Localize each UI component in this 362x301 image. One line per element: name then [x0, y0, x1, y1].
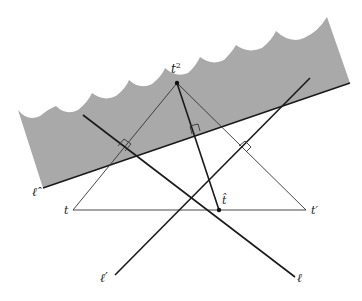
diagram-canvas: t2 t t′ t̂ ℓ̂ ℓ ℓ′: [0, 0, 362, 301]
label-t-hat: t̂: [222, 193, 227, 207]
label-ell-hat: ℓ̂: [32, 185, 42, 199]
line-ell: [83, 115, 295, 277]
label-t: t: [64, 204, 69, 217]
point-t-squared: [175, 81, 179, 85]
label-ell: ℓ: [297, 271, 302, 285]
label-t-squared: t2: [171, 61, 181, 76]
label-ell-prime: ℓ′: [100, 271, 108, 285]
label-t-prime: t′: [311, 204, 318, 217]
point-t-hat: [217, 208, 221, 212]
